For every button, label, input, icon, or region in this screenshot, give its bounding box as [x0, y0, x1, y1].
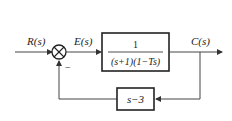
output-label: C(s): [191, 35, 210, 48]
forward-numerator: 1: [133, 39, 138, 50]
error-label: E(s): [73, 35, 93, 48]
feedback-transfer: s−3: [127, 93, 145, 105]
feedback-sign: −: [65, 62, 71, 73]
summing-junction: [52, 45, 66, 59]
input-label: R(s): [26, 35, 46, 48]
forward-denominator: (s+1)(1−Ts): [111, 56, 161, 68]
